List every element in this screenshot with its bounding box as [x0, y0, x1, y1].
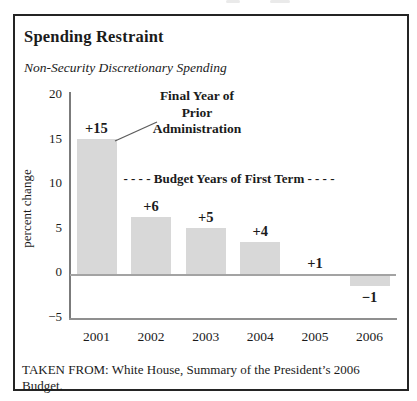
bar-value-label: +1	[292, 255, 338, 271]
x-tick-label: 2003	[183, 330, 229, 344]
y-tick-label: 20	[28, 87, 62, 101]
x-tick-label: 2006	[347, 330, 393, 344]
annotation-budget-years: - - - - Budget Years of First Term - - -…	[79, 171, 379, 186]
zero-line	[70, 274, 396, 276]
bar-2003	[186, 228, 226, 274]
figure-page: Spending Restraint Non-Security Discreti…	[0, 0, 417, 401]
y-tick-label: 15	[28, 132, 62, 146]
x-tick-label: 2005	[292, 330, 338, 344]
annotation-pointer-line	[108, 116, 164, 146]
bar-2001	[77, 139, 117, 274]
bar-value-label: +4	[237, 223, 283, 239]
y-tick-label: −5	[28, 310, 62, 324]
y-tick-label: 5	[28, 221, 62, 235]
x-tick-label: 2002	[128, 330, 174, 344]
y-tick-label: 0	[28, 265, 62, 279]
y-tick-label: 10	[28, 176, 62, 190]
bar-value-label: −1	[347, 289, 393, 305]
source-caption: TAKEN FROM: White House, Summary of the …	[22, 362, 402, 394]
x-tick-label: 2004	[237, 330, 283, 344]
bar-chart: 20151050−5+152001+62002+52003+42004+1200…	[0, 0, 417, 401]
bar-value-label: +5	[183, 209, 229, 225]
x-tick-label: 2001	[74, 330, 120, 344]
y-axis-line	[69, 92, 71, 319]
annotation-line: Final Year of	[117, 88, 277, 105]
x-axis-line	[69, 318, 397, 320]
bar-2004	[240, 242, 280, 274]
bar-2002	[131, 217, 171, 274]
bar-2006	[350, 275, 390, 286]
bar-value-label: +6	[128, 198, 174, 214]
